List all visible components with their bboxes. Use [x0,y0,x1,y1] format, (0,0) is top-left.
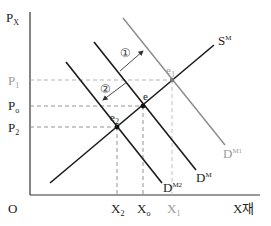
origin-label: O [8,201,17,216]
equilibrium-e-label: e [143,90,148,102]
price-label-p1: P1 [8,73,19,90]
equilibrium-e-dot [141,104,146,109]
quantity-label-x2: X2 [111,201,124,218]
demand-curve-m1 [123,18,225,145]
price-label-po: Po [8,98,19,115]
shift-marker-1: ① [120,46,131,60]
x-axis-label: X재 [233,201,254,216]
shift-marker-2: ② [100,82,111,96]
equilibrium-e1-label: e1 [166,64,175,79]
y-axis-label: PX [6,10,19,27]
quantity-label-x1: X1 [167,201,180,218]
demand-curve-m-label: DM [196,170,212,185]
supply-demand-diagram: PX X재 O P1 Po P2 X2 Xo X1 SM DM1 DM DM2 … [0,0,271,226]
supply-curve-label: SM [218,33,232,48]
price-label-p2: P2 [8,120,19,137]
equilibrium-e2-label: e2 [110,111,119,126]
quantity-label-xo: Xo [137,201,150,218]
demand-curve-m1-label: DM1 [223,146,243,161]
demand-curve-m2-label: DM2 [163,180,183,195]
